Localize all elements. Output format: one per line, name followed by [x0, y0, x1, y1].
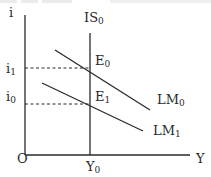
- point-e1-label: E1: [95, 90, 110, 105]
- lm0-curve-label: LM0: [157, 93, 185, 108]
- lm1-curve: [42, 83, 143, 131]
- diagram-canvas: [0, 0, 211, 177]
- origin-label: O: [17, 152, 28, 165]
- y-axis-label: i: [9, 6, 13, 19]
- is-lm-diagram: i IS0 E0 E1 i1 i0 LM0 LM1 O Y0 Y: [0, 0, 211, 177]
- tick-i1-label: i1: [6, 62, 16, 77]
- point-e0-label: E0: [95, 54, 110, 69]
- x-axis-label: Y: [196, 152, 205, 165]
- is-curve-label: IS0: [84, 11, 104, 26]
- lm1-curve-label: LM1: [153, 124, 181, 139]
- tick-i0-label: i0: [6, 90, 16, 105]
- tick-y0-label: Y0: [86, 160, 100, 175]
